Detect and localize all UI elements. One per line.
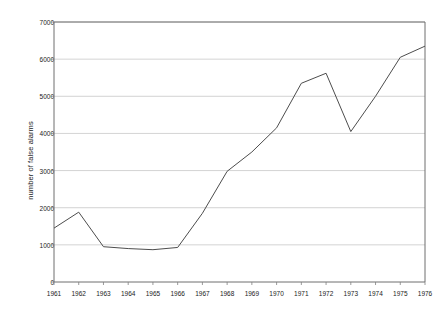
plot-area [0, 0, 448, 321]
line-chart: number of false alarms 01000200030004000… [0, 0, 448, 321]
gridlines [54, 22, 425, 245]
data-series-line [54, 46, 425, 250]
axis-lines [54, 22, 425, 282]
